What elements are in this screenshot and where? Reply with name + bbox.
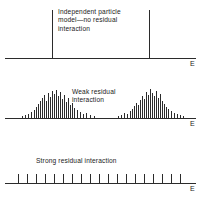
panel-caption-strong-residual: Strong residual interaction [36, 157, 117, 165]
energy-level-line [130, 111, 131, 118]
energy-level-line [58, 96, 59, 118]
energy-level-tick [126, 174, 127, 183]
energy-level-line [42, 98, 43, 118]
energy-level-line [149, 10, 150, 58]
energy-level-line [154, 96, 155, 118]
energy-level-line [54, 94, 55, 118]
energy-level-line [150, 89, 151, 118]
energy-level-line [34, 110, 35, 118]
energy-level-line [44, 95, 45, 118]
energy-level-line [166, 107, 167, 118]
level-lines-weak-residual [0, 88, 205, 118]
energy-level-figure: Independent particle model—no residual i… [0, 0, 205, 201]
energy-level-line [50, 97, 51, 118]
energy-level-line [36, 107, 37, 118]
energy-level-tick [63, 174, 64, 183]
energy-level-line [66, 102, 67, 118]
energy-level-line [156, 91, 157, 118]
energy-level-line [64, 95, 65, 118]
energy-level-line [70, 105, 71, 118]
energy-level-line [48, 93, 49, 118]
axis-label-e-strong-residual: E [190, 185, 195, 193]
energy-axis-weak-residual [5, 118, 196, 119]
energy-level-line [134, 106, 135, 118]
energy-level-line [38, 104, 39, 118]
energy-level-tick [99, 174, 100, 183]
energy-level-line [40, 101, 41, 118]
energy-level-line [144, 99, 145, 118]
energy-level-tick [108, 174, 109, 183]
energy-level-tick [117, 174, 118, 183]
energy-level-tick [81, 174, 82, 183]
energy-level-tick [27, 174, 28, 183]
energy-level-line [77, 110, 78, 118]
energy-level-line [56, 90, 57, 118]
energy-level-line [136, 103, 137, 118]
energy-level-line [132, 109, 133, 118]
energy-level-line [138, 105, 139, 118]
energy-level-tick [72, 174, 73, 183]
energy-level-tick [144, 174, 145, 183]
energy-level-line [52, 10, 53, 58]
energy-level-line [68, 98, 69, 118]
energy-level-tick [153, 174, 154, 183]
energy-level-line [72, 103, 73, 118]
energy-level-line [46, 101, 47, 118]
energy-level-line [168, 109, 169, 118]
energy-level-tick [171, 174, 172, 183]
energy-level-tick [135, 174, 136, 183]
energy-level-line [146, 92, 147, 118]
energy-level-tick [36, 174, 37, 183]
energy-level-line [52, 91, 53, 118]
energy-level-tick [180, 174, 181, 183]
energy-level-tick [162, 174, 163, 183]
energy-level-tick [18, 174, 19, 183]
axis-label-e-weak-residual: E [190, 120, 195, 128]
level-lines-strong-residual [0, 174, 205, 183]
energy-level-line [162, 101, 163, 118]
energy-level-line [152, 93, 153, 118]
energy-level-tick [45, 174, 46, 183]
energy-level-line [148, 95, 149, 118]
energy-axis-strong-residual [5, 183, 196, 184]
energy-level-tick [90, 174, 91, 183]
energy-level-line [62, 99, 63, 118]
axis-label-e-independent-particle: E [190, 60, 195, 68]
energy-axis-independent-particle [5, 58, 196, 59]
energy-level-line [142, 96, 143, 118]
energy-level-line [74, 108, 75, 118]
energy-level-line [160, 94, 161, 118]
energy-level-tick [54, 174, 55, 183]
level-lines-independent-particle [0, 10, 205, 58]
energy-level-line [140, 100, 141, 118]
energy-level-line [60, 92, 61, 118]
energy-level-line [171, 111, 172, 118]
energy-level-line [158, 98, 159, 118]
energy-level-line [164, 104, 165, 118]
